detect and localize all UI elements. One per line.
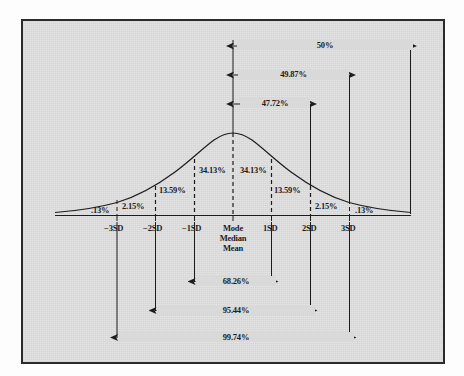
axis-label-plus2sd: 2SD (302, 223, 317, 233)
label-arrow-49-87: 49.87% (238, 69, 349, 79)
label-area-left-2: 2.15% (122, 201, 144, 211)
axis-label-minus2sd: −2SD (143, 223, 162, 233)
label-arrow-68-26: 68.26% (196, 276, 276, 286)
axis-label-mean: Mean (213, 243, 253, 254)
figure-canvas: 50% 49.87% 47.72% 34.13% 34.13% 13.59% 1… (0, 0, 464, 376)
label-area-right-2: 2.15% (315, 201, 337, 211)
label-area-left-tail: .13% (91, 205, 109, 215)
label-area-right-13: 13.59% (274, 185, 300, 195)
label-arrow-47-72: 47.72% (240, 98, 310, 108)
label-area-right-tail: .13% (355, 205, 373, 215)
axis-label-median: Median (213, 233, 253, 244)
axis-label-plus1sd: 1SD (263, 223, 278, 233)
distribution-diagram (0, 0, 464, 376)
bell-curve (55, 133, 411, 213)
label-arrow-95-44: 95.44% (157, 305, 315, 315)
label-area-right-34: 34.13% (240, 165, 266, 175)
label-area-left-13: 13.59% (159, 185, 185, 195)
label-area-left-34: 34.13% (199, 165, 225, 175)
axis-label-minus1sd: −1SD (182, 223, 201, 233)
label-arrow-99-74: 99.74% (118, 332, 354, 342)
label-arrow-50: 50% (237, 40, 413, 50)
axis-label-mode: Mode (213, 223, 253, 234)
axis-label-minus3sd: −3SD (104, 223, 123, 233)
axis-label-plus3sd: 3SD (341, 223, 356, 233)
